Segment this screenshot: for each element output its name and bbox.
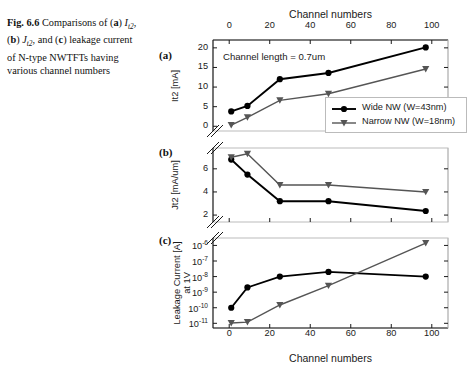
- panel-b-marker-circle: [277, 198, 283, 204]
- legend-item-wide-nw: Wide NW (W=43nm): [362, 102, 446, 112]
- caption-figure-label: Fig. 6.6: [7, 17, 39, 28]
- panel-b-marker-circle: [423, 208, 429, 214]
- panel-c-marker-circle: [325, 269, 331, 275]
- panel-b-marker-circle: [325, 198, 331, 204]
- legend-marker-circle: [341, 106, 347, 112]
- panel-c-series-line-0: [231, 272, 425, 308]
- panel-c-marker-triangle: [276, 302, 283, 308]
- panel-a-marker-circle: [277, 76, 283, 82]
- panel-c-marker-circle: [423, 273, 429, 279]
- panel-c-marker-circle: [228, 305, 234, 311]
- panel-a-marker-circle: [228, 108, 234, 114]
- figure-plot-area: Channel numbers (a) (b) (c) Channel leng…: [150, 0, 467, 380]
- panel-a-marker-circle: [423, 44, 429, 50]
- legend: Wide NW (W=43nm) Narrow NW (W=18nm): [325, 97, 467, 133]
- panel-a-marker-triangle: [244, 114, 251, 120]
- legend-item-narrow-nw: Narrow NW (W=18nm): [362, 116, 455, 126]
- panel-a-marker-circle: [244, 103, 250, 109]
- panel-c-marker-triangle: [325, 283, 332, 289]
- caption-text-1: Comparisons of (: [42, 17, 114, 28]
- panel-a-marker-triangle: [228, 122, 235, 128]
- panel-a-marker-circle: [325, 70, 331, 76]
- figure-caption: Fig. 6.6 Comparisons of (a) It2, (b) Jt2…: [7, 16, 143, 78]
- plot-canvas: [150, 0, 467, 380]
- panel-b-marker-circle: [244, 171, 250, 177]
- caption-mid-2: , and (: [33, 34, 59, 45]
- panel-c-marker-triangle: [422, 240, 429, 246]
- panel-c-marker-circle: [244, 284, 250, 290]
- panel-c-marker-circle: [277, 273, 283, 279]
